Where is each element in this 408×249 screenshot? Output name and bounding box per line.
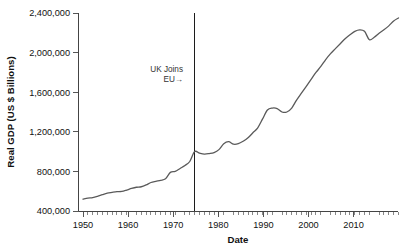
y-axis-title: Real GDP (US $ Billions) <box>5 56 16 167</box>
annotation-label-line2: EU→ <box>163 75 183 84</box>
y-axis-ticks: 2,400,000 2,000,000 1,600,000 1,200,000 … <box>29 8 78 216</box>
y-tick-label: 800,000 <box>37 167 70 177</box>
x-tick-label: 2010 <box>343 220 363 230</box>
gdp-line-chart: 2,400,000 2,000,000 1,600,000 1,200,000 … <box>0 0 408 249</box>
x-tick-label: 1970 <box>163 220 183 230</box>
x-tick-label: 1960 <box>118 220 138 230</box>
y-tick-label: 2,000,000 <box>29 48 70 58</box>
x-tick-label: 1990 <box>253 220 273 230</box>
y-tick-label: 2,400,000 <box>29 8 70 18</box>
y-tick-label: 400,000 <box>37 206 70 216</box>
annotation-label-line1: UK Joins <box>150 65 183 74</box>
x-tick-label: 1950 <box>73 220 93 230</box>
gdp-series-line <box>83 18 399 199</box>
chart-figure: 2,400,000 2,000,000 1,600,000 1,200,000 … <box>0 0 408 249</box>
x-axis-title: Date <box>228 234 249 245</box>
x-tick-label: 1980 <box>208 220 228 230</box>
x-tick-label: 2000 <box>298 220 318 230</box>
x-axis-ticks: 1950 1960 1970 1980 1990 2000 2010 <box>73 212 364 231</box>
y-tick-label: 1,600,000 <box>29 88 70 98</box>
y-tick-label: 1,200,000 <box>29 127 70 137</box>
